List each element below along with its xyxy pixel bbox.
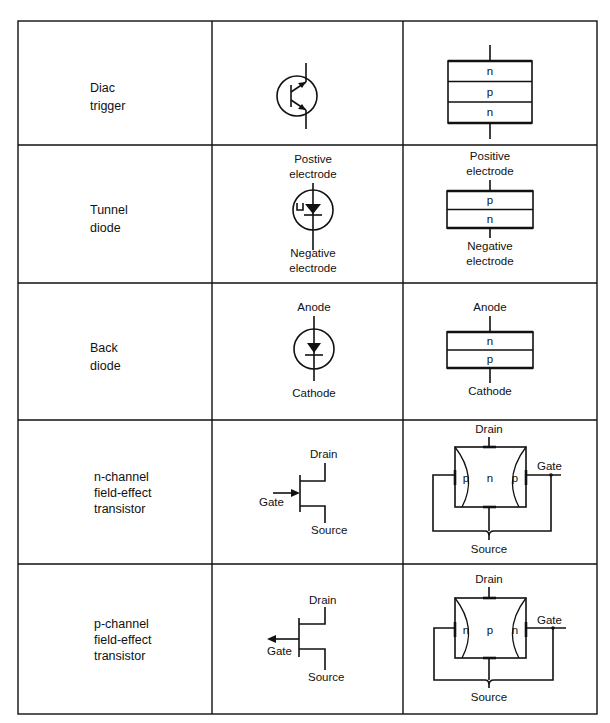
- layer-label: n: [487, 213, 493, 225]
- p-channel-fet-symbol-icon: Drain Gate Source: [267, 594, 344, 683]
- layer-label: n: [487, 335, 493, 347]
- device-name-line: p-channel: [94, 617, 149, 631]
- table-row-tunnel-diode: Tunnel diode Postive electrode Negative …: [90, 150, 533, 274]
- device-name-line: field-effect: [94, 486, 152, 500]
- symbol-terminal-label: Source: [308, 671, 344, 683]
- layer-label: p: [487, 353, 493, 365]
- structure-terminal-label: electrode: [466, 165, 513, 177]
- table-row-p-channel-fet: p-channel field-effect transistor Drain …: [94, 573, 566, 703]
- structure-terminal-label: Drain: [475, 423, 502, 435]
- symbol-terminal-label: Drain: [310, 448, 337, 460]
- structure-terminal-label: Cathode: [468, 385, 511, 397]
- back-diode-structure-diagram: Anode n p Cathode: [447, 301, 533, 397]
- symbol-terminal-label: Postive: [294, 153, 332, 165]
- semiconductor-symbols-table: Diac trigger n p n Tunnel diode: [0, 0, 610, 723]
- layer-label: n: [512, 624, 518, 636]
- symbol-terminal-label: electrode: [289, 168, 336, 180]
- tunnel-diode-symbol-icon: Postive electrode Negative electrode: [289, 153, 336, 274]
- structure-terminal-label: electrode: [466, 255, 513, 267]
- structure-terminal-label: Gate: [537, 460, 562, 472]
- n-channel-fet-symbol-icon: Drain Gate Source: [259, 448, 347, 536]
- device-name-line: Diac: [90, 81, 115, 95]
- device-name-line: n-channel: [94, 470, 149, 484]
- device-name-line: Tunnel: [90, 203, 128, 217]
- layer-label: n: [487, 472, 493, 484]
- table-row-n-channel-fet: n-channel field-effect transistor Drain …: [94, 423, 562, 555]
- structure-terminal-label: Source: [471, 691, 507, 703]
- layer-label: n: [487, 106, 493, 118]
- layer-label: p: [487, 624, 493, 636]
- structure-terminal-label: Negative: [467, 240, 512, 252]
- n-channel-fet-structure-diagram: Drain p n p Gate Source: [433, 423, 562, 555]
- layer-label: n: [487, 65, 493, 77]
- structure-terminal-label: Drain: [475, 573, 502, 585]
- symbol-terminal-label: Negative: [290, 247, 335, 259]
- symbol-terminal-label: Drain: [309, 594, 336, 606]
- device-name-line: trigger: [90, 99, 125, 113]
- symbol-terminal-label: Cathode: [292, 387, 335, 399]
- structure-terminal-label: Positive: [470, 150, 510, 162]
- layer-label: n: [463, 624, 469, 636]
- device-name-line: transistor: [94, 502, 145, 516]
- symbol-terminal-label: Source: [311, 524, 347, 536]
- back-diode-symbol-icon: Anode Cathode: [292, 301, 335, 399]
- device-name-line: transistor: [94, 649, 145, 663]
- symbol-terminal-label: electrode: [289, 262, 336, 274]
- layer-label: p: [463, 472, 469, 484]
- table-row-back-diode: Back diode Anode Cathode Anode n p Catho…: [90, 301, 533, 399]
- device-name-line: diode: [90, 221, 121, 235]
- table-row-diac: Diac trigger n p n: [90, 45, 532, 139]
- layer-label: p: [487, 194, 493, 206]
- layer-label: p: [487, 86, 493, 98]
- tunnel-diode-structure-diagram: Positive electrode p n Negative electrod…: [447, 150, 533, 267]
- device-name-line: diode: [90, 359, 121, 373]
- symbol-terminal-label: Gate: [267, 645, 292, 657]
- device-name-line: field-effect: [94, 633, 152, 647]
- symbol-terminal-label: Gate: [259, 496, 284, 508]
- diac-structure-diagram: n p n: [448, 45, 532, 139]
- structure-terminal-label: Source: [471, 543, 507, 555]
- structure-terminal-label: Anode: [473, 301, 506, 313]
- structure-terminal-label: Gate: [537, 614, 562, 626]
- symbol-terminal-label: Anode: [297, 301, 330, 313]
- layer-label: p: [512, 472, 518, 484]
- p-channel-fet-structure-diagram: Drain n p n Gate Source: [434, 573, 566, 703]
- diac-symbol-icon: [277, 63, 317, 129]
- device-name-line: Back: [90, 341, 119, 355]
